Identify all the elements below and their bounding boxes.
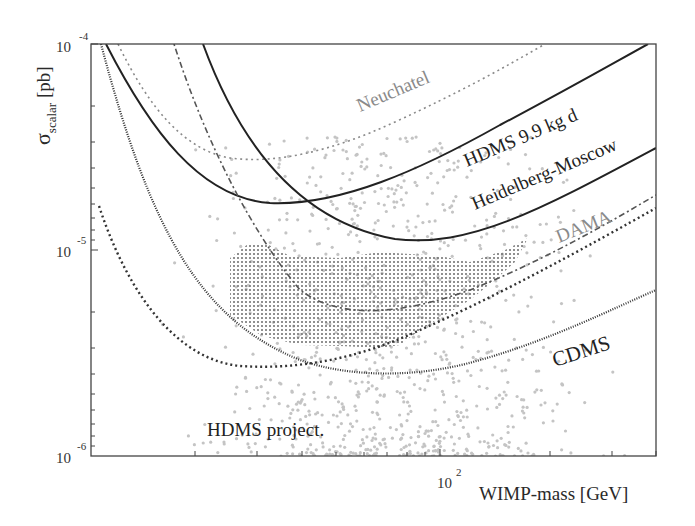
y-axis-sub: scalar <box>44 102 59 133</box>
label-neuchatel: Neuchatel <box>353 66 432 115</box>
y-axis-sigma: σ <box>30 133 55 145</box>
x-tick-1e2-exp: 2 <box>456 466 462 478</box>
y-tick-1e-4-exp: -4 <box>79 30 89 42</box>
dama-allowed-region <box>230 238 528 348</box>
y-tick-1e-6: 10 <box>56 450 71 466</box>
y-tick-labels: 10 -4 10 -5 10 -6 <box>56 30 89 466</box>
y-tick-1e-5-exp: -5 <box>77 234 87 246</box>
exclusion-plot: 10 -4 10 -5 10 -6 10 2 WIMP-mass [GeV] σ… <box>0 0 695 526</box>
y-axis-title: σscalar [pb] <box>30 66 59 145</box>
label-hdms-project: HDMS project. <box>207 419 324 440</box>
y-axis-ticks <box>91 44 98 446</box>
x-tick-labels: 10 2 <box>437 466 462 491</box>
x-axis-title: WIMP-mass [GeV] <box>479 483 628 504</box>
svg-text:σscalar [pb]: σscalar [pb] <box>30 66 59 145</box>
y-tick-1e-6-exp: -6 <box>77 440 87 452</box>
label-cdms: CDMS <box>549 331 613 372</box>
x-axis-ticks <box>195 449 656 456</box>
x-tick-1e2: 10 <box>437 475 452 491</box>
curve-heidelberg-moscow <box>203 44 656 240</box>
label-dama: DAMA <box>553 205 615 246</box>
y-tick-1e-5: 10 <box>56 244 71 260</box>
y-tick-1e-4: 10 <box>56 39 71 55</box>
y-axis-unit: [pb] <box>33 66 54 102</box>
